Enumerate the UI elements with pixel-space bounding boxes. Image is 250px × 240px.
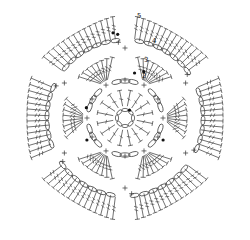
stitch-top: [169, 30, 173, 32]
stitch-bar: [96, 74, 100, 75]
petal-treble: [185, 169, 202, 184]
stitch-top: [99, 60, 104, 61]
stitch-bar: [134, 134, 138, 135]
chain-stitch: [147, 88, 157, 98]
stitch-bar: [91, 200, 94, 203]
stitch-top: [222, 100, 223, 105]
stitch-bar: [36, 135, 37, 139]
stitch-top: [99, 175, 104, 176]
petal-treble: [44, 166, 62, 180]
stitch-bar: [150, 161, 154, 162]
stitch-top: [66, 197, 70, 200]
stitch-top: [71, 200, 75, 203]
stitch-top: [141, 217, 146, 218]
stitch-bar: [183, 52, 185, 56]
stitch-bar: [173, 128, 177, 130]
slip-stitch-marker: [128, 109, 131, 112]
stitch-bar: [73, 47, 77, 48]
stitch-bar: [213, 97, 214, 101]
stitch-bar: [78, 45, 82, 46]
stitch-top: [156, 64, 160, 67]
petal-treble: [200, 139, 222, 145]
slip-stitch-marker: [162, 138, 165, 141]
stitch-bar: [210, 97, 211, 101]
double-crochet: [127, 130, 130, 146]
slip-stitch-marker: [133, 71, 136, 74]
double-crochet: [109, 95, 118, 108]
petal-treble: [161, 32, 171, 51]
stitch-bar: [209, 153, 212, 156]
double-crochet: [132, 128, 141, 141]
double-crochet: [120, 91, 123, 107]
petal-treble: [44, 57, 62, 71]
stitch-top: [66, 36, 70, 39]
petal-treble: [181, 48, 197, 64]
round-label-2: 2: [142, 73, 146, 80]
petal-treble: [201, 115, 223, 116]
stitch-top: [104, 18, 109, 19]
slip-stitch-marker: [116, 33, 119, 36]
petal-treble: [53, 172, 69, 188]
stitch-top: [110, 16, 115, 17]
petal-treble: [95, 23, 102, 44]
double-crochet: [98, 120, 114, 123]
stitch-top: [42, 55, 45, 59]
stitch-top: [117, 90, 122, 91]
petal-treble: [29, 91, 51, 97]
chain-stitch: [153, 131, 162, 142]
stitch-top: [156, 169, 160, 172]
chain-stitch: [89, 131, 98, 142]
petal-treble: [188, 166, 206, 180]
petal-treble: [165, 183, 177, 202]
petal-treble: [73, 183, 85, 202]
stitch-bar: [209, 92, 210, 96]
stitch-top: [205, 177, 208, 181]
stitch-bar: [175, 191, 179, 192]
stitch-top: [174, 33, 178, 36]
petal-treble: [135, 197, 138, 219]
petal-treble: [48, 169, 65, 184]
stitch-top: [128, 145, 133, 146]
stitch-bar: [56, 60, 60, 62]
stitch-top: [104, 217, 109, 218]
stitch-top: [169, 203, 173, 205]
stitch-bar: [189, 181, 193, 182]
stitch-bar: [191, 175, 195, 177]
stitch-bar: [160, 38, 163, 41]
stitch-bar: [41, 82, 44, 85]
stitch-top: [82, 70, 84, 74]
chain-stitch: [106, 192, 116, 198]
chain-stitch: [131, 115, 134, 121]
stitch-top: [174, 200, 178, 203]
double-crochet: [102, 102, 115, 111]
stitch-top: [138, 140, 142, 143]
stitch-top: [71, 33, 75, 36]
stitch-bar: [168, 191, 172, 192]
stitch-top: [185, 40, 189, 43]
stitch-bar: [170, 194, 174, 195]
treble-crochet: [83, 153, 102, 163]
stitch-bar: [127, 136, 131, 137]
stitch-bar: [144, 203, 148, 204]
stitch-bar: [98, 164, 101, 167]
petal-treble: [68, 38, 81, 56]
slip-stitch-marker: [85, 106, 88, 109]
stitch-bar: [156, 33, 159, 36]
stitch-top: [187, 118, 188, 123]
treble-crochet: [148, 73, 167, 83]
stitch-bar: [119, 99, 123, 100]
petal-treble: [201, 120, 223, 121]
petal-treble: [139, 195, 143, 217]
stitch-top: [147, 131, 150, 135]
stitch-top: [107, 93, 111, 96]
double-crochet: [132, 95, 141, 108]
stitch-bar: [40, 135, 41, 139]
stitch-top: [61, 40, 65, 43]
stitch-top: [82, 161, 84, 165]
stitch-bar: [173, 188, 177, 189]
stitch-top: [205, 55, 208, 59]
chain-stitch: [115, 115, 118, 121]
stitch-bar: [155, 161, 159, 163]
double-crochet: [102, 125, 115, 134]
petal-treble: [53, 48, 69, 64]
